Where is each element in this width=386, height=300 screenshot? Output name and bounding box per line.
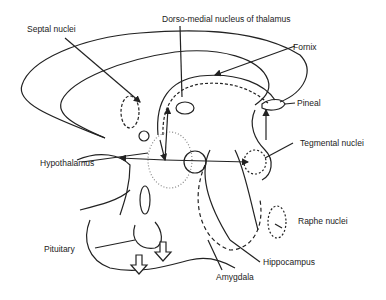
- fornix-arch: [158, 75, 275, 135]
- label-dorso-medial-nucleus: Dorso-medial nucleus of thalamus: [162, 14, 291, 24]
- output-arrow-icon: [131, 255, 147, 274]
- label-pituitary: Pituitary: [44, 244, 75, 254]
- hypothalamus-connections-diagram: Septal nuclei Dorso-medial nucleus of th…: [0, 0, 386, 300]
- pineal-body: [262, 100, 285, 111]
- label-pineal: Pineal: [297, 98, 321, 108]
- dorso-medial-nucleus-shape: [176, 102, 194, 114]
- label-septal-nuclei: Septal nuclei: [27, 24, 76, 34]
- label-amygdala: Amygdala: [216, 272, 254, 282]
- label-hypothalamus: Hypothalamus: [40, 158, 94, 168]
- label-hippocampus: Hippocampus: [263, 257, 315, 267]
- label-tegmental-nuclei: Tegmental nuclei: [300, 138, 364, 148]
- label-raphe-nuclei: Raphe nuclei: [298, 216, 348, 226]
- brain-sagittal-drawing: [0, 0, 386, 300]
- raphe-nucleus-shape: [268, 206, 286, 238]
- label-fornix: Fornix: [293, 42, 317, 52]
- hippocampus-outline: [198, 165, 261, 250]
- corpus-callosum-outline: [21, 31, 307, 138]
- output-arrow-icon: [155, 242, 171, 261]
